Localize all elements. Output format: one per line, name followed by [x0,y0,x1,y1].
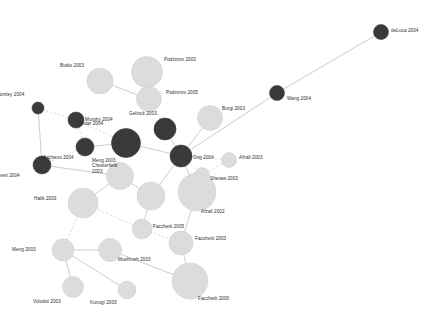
graph-node[interactable] [170,145,192,167]
graph-node[interactable] [112,129,141,158]
graph-node[interactable] [169,231,193,255]
graph-node[interactable] [132,57,163,88]
graph-node[interactable] [76,138,94,156]
graph-node[interactable] [137,182,165,210]
graph-node[interactable] [132,219,152,239]
graph-node[interactable] [198,106,223,131]
graph-node[interactable] [33,156,51,174]
graph-node[interactable] [222,153,237,168]
node-layer [32,25,389,300]
edge-layer [38,32,381,290]
graph-node[interactable] [374,25,389,40]
graph-node[interactable] [118,281,136,299]
graph-node[interactable] [178,173,216,211]
graph-edge [277,32,381,93]
graph-node[interactable] [68,112,84,128]
graph-node[interactable] [63,277,84,298]
graph-node[interactable] [107,163,134,190]
graph-node[interactable] [154,118,176,140]
graph-node[interactable] [87,68,113,94]
graph-edge [181,93,277,156]
graph-node[interactable] [172,263,208,299]
citation-network-graph: deLuca 2004Wang 2004Butko 2003Podzorov 2… [0,0,448,326]
graph-node[interactable] [52,239,74,261]
graph-canvas [0,0,448,326]
graph-node[interactable] [99,239,122,262]
graph-node[interactable] [270,86,285,101]
graph-node[interactable] [32,102,44,114]
graph-node[interactable] [68,188,98,218]
graph-node[interactable] [137,87,162,112]
